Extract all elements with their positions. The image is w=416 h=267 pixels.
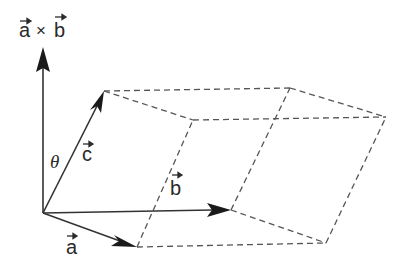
arrowheads bbox=[36, 47, 231, 247]
dashed-edges bbox=[104, 88, 386, 247]
arrowhead-a-icon bbox=[111, 235, 137, 247]
label-cross-b: b bbox=[54, 19, 65, 41]
parallelepiped-diagram: a × b θ c b a bbox=[0, 0, 416, 267]
vector-arrow-accents bbox=[20, 15, 182, 239]
vector-a-shaft bbox=[43, 213, 120, 241]
label-theta: θ bbox=[50, 151, 59, 172]
edge-b-to-b-plus-c bbox=[231, 88, 290, 210]
arrowhead-c-icon bbox=[90, 91, 104, 113]
edge-a-to-a-plus-c bbox=[137, 120, 193, 247]
edge-b-plus-c-to-abc bbox=[290, 88, 386, 117]
edge-a-plus-c-to-abc bbox=[193, 117, 386, 120]
label-vector-c: c bbox=[82, 143, 92, 165]
label-vector-b: b bbox=[170, 177, 181, 199]
edge-c-to-b-plus-c bbox=[104, 88, 290, 91]
edge-a-to-a-plus-b bbox=[137, 243, 326, 247]
vector-b-shaft bbox=[43, 210, 212, 213]
label-cross-times: × bbox=[36, 21, 46, 40]
diagram-svg: a × b θ c b a bbox=[0, 0, 416, 267]
edge-b-to-a-plus-b bbox=[231, 210, 326, 243]
label-vector-a: a bbox=[66, 236, 78, 258]
edge-c-to-a-plus-c bbox=[104, 91, 193, 120]
edge-a-plus-b-to-abc bbox=[326, 117, 386, 243]
vectors bbox=[43, 66, 212, 241]
